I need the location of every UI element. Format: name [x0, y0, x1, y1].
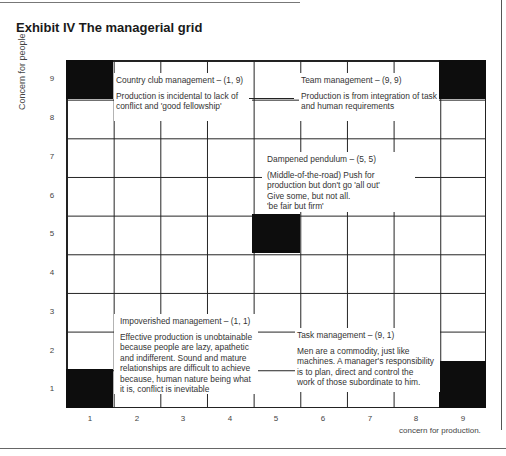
country-club-heading: Country club management – (1, 9) — [116, 75, 252, 86]
x-tick-4: 4 — [224, 414, 236, 423]
task-line-1: Men are a commodity, just like — [297, 346, 440, 357]
team-box: Team management – (9, 9) Production is f… — [299, 73, 439, 121]
dampened-pendulum-line-2: production but don't go 'all out' — [267, 180, 415, 191]
x-tick-1: 1 — [84, 414, 96, 423]
impoverished-line-4: relationships are difficult to achieve — [120, 363, 258, 374]
impoverished-line-5: because, human nature being what — [120, 374, 258, 385]
y-tick-8: 8 — [46, 113, 58, 122]
impoverished-line-3: and indifferent. Sound and mature — [120, 353, 258, 364]
x-tick-6: 6 — [317, 414, 329, 423]
x-tick-3: 3 — [177, 414, 189, 423]
y-tick-5: 5 — [46, 229, 58, 238]
impoverished-line-6: it is, conflict is inevitable — [120, 384, 258, 395]
y-tick-3: 3 — [46, 307, 58, 316]
impoverished-heading: Impoverished management – (1, 1) — [120, 316, 258, 327]
y-tick-6: 6 — [46, 191, 58, 200]
y-tick-4: 4 — [46, 268, 58, 277]
cell-9-9 — [439, 60, 486, 99]
cell-1-1 — [66, 369, 113, 408]
top-rule — [0, 2, 300, 3]
task-box: Task management – (9, 1) Men are a commo… — [295, 328, 440, 392]
leader-line — [249, 98, 294, 99]
y-tick-2: 2 — [46, 346, 58, 355]
y-axis-label: Concern for people — [17, 33, 27, 110]
team-description: Production is from integration of task a… — [301, 91, 439, 112]
country-club-box: Country club management – (1, 9) Product… — [114, 73, 252, 121]
impoverished-box: Impoverished management – (1, 1) Effecti… — [114, 314, 258, 394]
dampened-pendulum-line-3: Give some, but not all. — [267, 191, 415, 202]
x-tick-2: 2 — [131, 414, 143, 423]
y-tick-9: 9 — [46, 74, 58, 83]
x-axis-label: concern for production. — [399, 426, 481, 435]
exhibit-title: Exhibit IV The managerial grid — [16, 20, 202, 35]
right-rule — [501, 0, 502, 430]
cell-9-1 — [439, 361, 486, 408]
dampened-pendulum-box: Dampened pendulum – (5, 5) (Middle-of-th… — [262, 152, 415, 212]
task-line-4: work of those subordinate to him. — [297, 377, 440, 388]
x-tick-9: 9 — [457, 414, 469, 423]
impoverished-line-2: because people are lazy, apathetic — [120, 342, 258, 353]
x-tick-7: 7 — [364, 414, 376, 423]
task-line-2: machines. A manager's responsibility — [297, 356, 440, 367]
dampened-pendulum-heading: Dampened pendulum – (5, 5) — [267, 154, 415, 165]
y-tick-1: 1 — [46, 384, 58, 393]
bottom-rule — [0, 448, 506, 449]
x-tick-5: 5 — [270, 414, 282, 423]
x-tick-8: 8 — [410, 414, 422, 423]
y-tick-7: 7 — [46, 152, 58, 161]
task-line-3: is to plan, direct and control the — [297, 367, 440, 378]
cell-1-9 — [66, 60, 113, 99]
impoverished-line-1: Effective production is unobtainable — [120, 332, 258, 343]
task-heading: Task management – (9, 1) — [297, 330, 440, 341]
cell-5-5 — [252, 214, 300, 253]
dampened-pendulum-line-1: (Middle-of-the-road) Push for — [267, 170, 415, 181]
team-heading: Team management – (9, 9) — [301, 75, 439, 86]
country-club-description: Production is incidental to lack of conf… — [116, 91, 252, 112]
dampened-pendulum-line-4: 'be fair but firm' — [267, 201, 415, 212]
